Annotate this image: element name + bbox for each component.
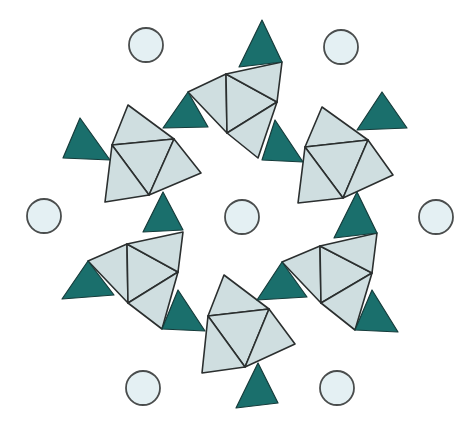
ion-sphere bbox=[27, 199, 61, 233]
ion-sphere bbox=[419, 200, 453, 234]
polyhedral-structure-diagram bbox=[0, 0, 472, 432]
crystal-structure-canvas bbox=[0, 0, 472, 432]
ion-sphere bbox=[320, 371, 354, 405]
tetrahedron bbox=[63, 118, 110, 160]
tetrahedron bbox=[239, 20, 282, 67]
ion-sphere bbox=[324, 30, 358, 64]
ion-sphere bbox=[126, 371, 160, 405]
ion-sphere bbox=[129, 28, 163, 62]
tetrahedron bbox=[143, 192, 183, 232]
tetrahedron bbox=[357, 92, 407, 130]
ion-sphere bbox=[225, 200, 259, 234]
tetrahedron bbox=[236, 363, 278, 408]
